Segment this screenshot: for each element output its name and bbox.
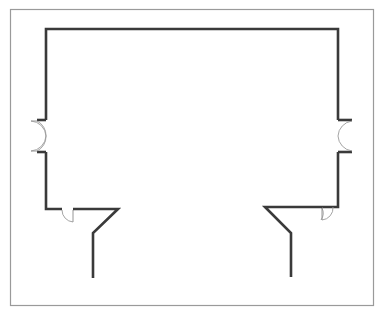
right-corridor-wall bbox=[265, 207, 322, 277]
bottom-left-door bbox=[62, 210, 73, 222]
left-double-door bbox=[31, 120, 46, 152]
right-double-door bbox=[338, 120, 352, 152]
room-walls bbox=[46, 29, 338, 209]
floor-plan bbox=[0, 0, 382, 316]
outer-frame bbox=[11, 10, 374, 306]
bottom-right-door bbox=[321, 207, 333, 220]
left-corridor-wall bbox=[73, 209, 118, 278]
